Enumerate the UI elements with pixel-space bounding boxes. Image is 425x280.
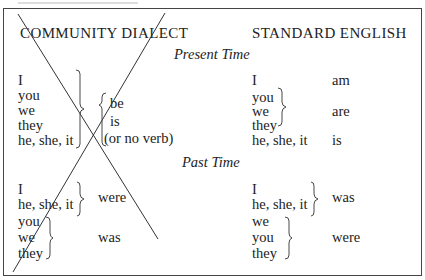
crossout-icon [13, 13, 165, 272]
brace-icon [77, 182, 84, 216]
brace-icon [311, 182, 318, 216]
brace-icon [278, 88, 286, 126]
braces-and-crossout [0, 0, 425, 280]
brace-icon [285, 217, 292, 259]
brace-icon [46, 217, 53, 259]
